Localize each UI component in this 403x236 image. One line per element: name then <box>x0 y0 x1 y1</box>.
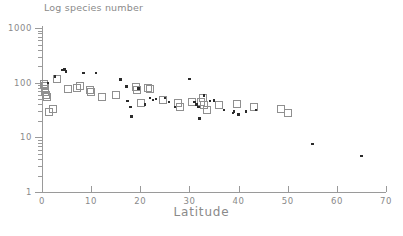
y-tick-label: 10 <box>0 132 32 142</box>
data-point-square <box>98 93 106 101</box>
x-tick-major <box>91 186 92 192</box>
data-point-dot <box>245 110 247 112</box>
data-point-dot <box>95 72 97 74</box>
data-point-square <box>76 82 84 90</box>
data-point-dot <box>360 155 362 157</box>
data-point-dot <box>130 115 132 117</box>
data-point-square <box>233 100 241 108</box>
y-tick-minor <box>38 140 42 141</box>
y-tick-minor <box>38 66 42 67</box>
y-tick-minor <box>38 166 42 167</box>
x-tick-major <box>189 186 190 192</box>
data-point-dot <box>209 100 211 102</box>
data-point-square <box>176 103 184 111</box>
data-point-dot <box>119 78 121 80</box>
y-tick-minor <box>38 146 42 147</box>
y-tick-minor <box>38 57 42 58</box>
x-tick-major <box>337 186 338 192</box>
data-point-dot <box>137 87 139 89</box>
data-point-dot <box>155 98 157 100</box>
data-point-square <box>146 85 154 93</box>
data-point-dot <box>197 106 199 108</box>
data-point-dot <box>311 143 313 145</box>
data-point-dot <box>47 82 49 84</box>
x-tick-major <box>239 186 240 192</box>
y-tick-major <box>35 192 42 193</box>
data-point-dot <box>164 97 166 99</box>
y-tick-minor <box>38 143 42 144</box>
data-point-dot <box>233 110 235 112</box>
y-tick-minor <box>38 104 42 105</box>
data-point-dot <box>126 100 128 102</box>
y-tick-minor <box>38 40 42 41</box>
y-tick-minor <box>38 45 42 46</box>
y-tick-minor <box>38 111 42 112</box>
y-tick-minor <box>38 150 42 151</box>
data-point-dot <box>129 106 131 108</box>
x-tick-major <box>386 186 387 192</box>
data-point-square <box>284 109 292 117</box>
data-point-dot <box>237 113 239 115</box>
data-point-dot <box>213 99 215 101</box>
y-tick-minor <box>38 99 42 100</box>
y-tick-label: 100 <box>0 78 32 88</box>
data-point-dot <box>188 78 190 80</box>
y-tick-major <box>35 137 42 138</box>
x-axis-line <box>42 192 386 193</box>
data-point-dot <box>82 72 84 74</box>
y-tick-minor <box>38 159 42 160</box>
y-tick-label: 1000 <box>0 23 32 33</box>
y-tick-label: 1 <box>0 187 32 197</box>
x-tick-major <box>42 186 43 192</box>
data-point-dot <box>144 103 146 105</box>
data-point-dot <box>125 85 127 87</box>
data-point-dot <box>174 106 176 108</box>
x-tick-major <box>140 186 141 192</box>
y-tick-minor <box>38 31 42 32</box>
data-point-dot <box>198 117 200 119</box>
y-tick-minor <box>38 33 42 34</box>
data-point-dot <box>168 101 170 103</box>
data-point-dot <box>223 109 225 111</box>
x-tick-major <box>288 186 289 192</box>
y-tick-minor <box>38 37 42 38</box>
data-point-square <box>43 93 51 101</box>
y-tick-minor <box>38 50 42 51</box>
data-point-dot <box>255 109 257 111</box>
data-point-dot <box>65 70 67 72</box>
data-point-dot <box>54 75 56 77</box>
y-tick-minor <box>38 121 42 122</box>
chart-canvas: Log species number 1101001000 0102030405… <box>0 0 403 236</box>
y-tick-minor <box>38 154 42 155</box>
y-tick-minor <box>38 176 42 177</box>
chart-title: Log species number <box>44 2 143 13</box>
data-point-square <box>49 105 57 113</box>
y-tick-major <box>35 28 42 29</box>
x-axis-title: Latitude <box>0 205 403 219</box>
data-point-square <box>112 91 120 99</box>
data-point-square <box>203 106 211 114</box>
data-point-square <box>87 88 95 96</box>
data-point-dot <box>203 94 205 96</box>
data-point-square <box>64 85 72 93</box>
y-axis-line <box>42 26 43 193</box>
